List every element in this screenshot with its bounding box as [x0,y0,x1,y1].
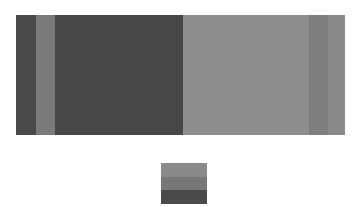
legend-swatch-2 [161,177,207,191]
chart-canvas [0,0,361,207]
legend-swatch-3 [161,190,207,204]
legend-swatch-1 [161,163,207,177]
legend-swatch-block [161,163,207,204]
bar-segment-4 [183,15,309,135]
bar-segment-1 [16,15,36,135]
bar-segment-5 [309,15,328,135]
bar-segment-6 [328,15,345,135]
bar-segment-2 [36,15,55,135]
bar-segment-3 [55,15,183,135]
stacked-bar [16,15,345,135]
